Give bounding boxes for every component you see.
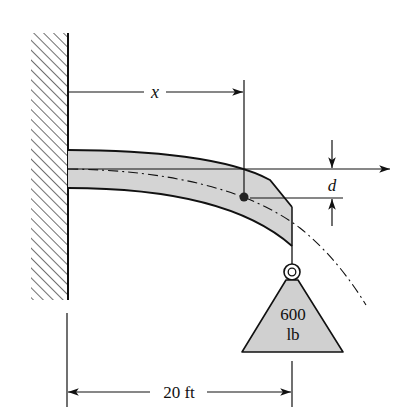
load-value: 600 — [280, 305, 306, 324]
beam-diagram: x d 600 lb 20 ft — [0, 0, 401, 407]
d-label: d — [328, 176, 337, 195]
load-weight: 600 lb — [242, 246, 343, 352]
load-unit: lb — [286, 325, 299, 344]
deflection-point — [240, 193, 249, 202]
span-label: 20 ft — [163, 383, 195, 402]
x-label: x — [150, 82, 159, 102]
fixed-wall — [31, 33, 68, 300]
